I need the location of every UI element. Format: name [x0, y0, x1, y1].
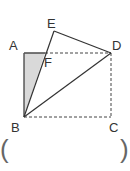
label-e: E	[47, 16, 56, 31]
label-d: D	[112, 38, 121, 53]
label-a: A	[9, 38, 18, 53]
label-b: B	[11, 120, 20, 135]
answer-paren-close: )	[120, 134, 129, 164]
geometry-diagram: A E D F B C ( )	[0, 0, 130, 171]
segment-ed	[54, 31, 111, 53]
label-f: F	[44, 55, 52, 70]
answer-paren-open: (	[0, 134, 9, 164]
label-c: C	[109, 120, 118, 135]
